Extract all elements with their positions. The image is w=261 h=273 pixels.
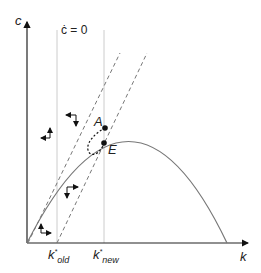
point-e: [101, 140, 107, 146]
point-a-label: A: [94, 115, 103, 128]
isocline-label: ċ = 0: [61, 24, 87, 36]
y-axis-label: c: [15, 14, 22, 27]
k-old-tick: k*old: [48, 248, 69, 265]
phase-diagram: [0, 0, 261, 273]
saddle-path-old: [28, 53, 120, 243]
direction-arrows: [41, 115, 78, 233]
x-axis-label: k: [240, 250, 247, 263]
point-a: [102, 125, 108, 131]
point-e-label: E: [108, 143, 117, 156]
k-new-tick: k*new: [93, 248, 119, 265]
